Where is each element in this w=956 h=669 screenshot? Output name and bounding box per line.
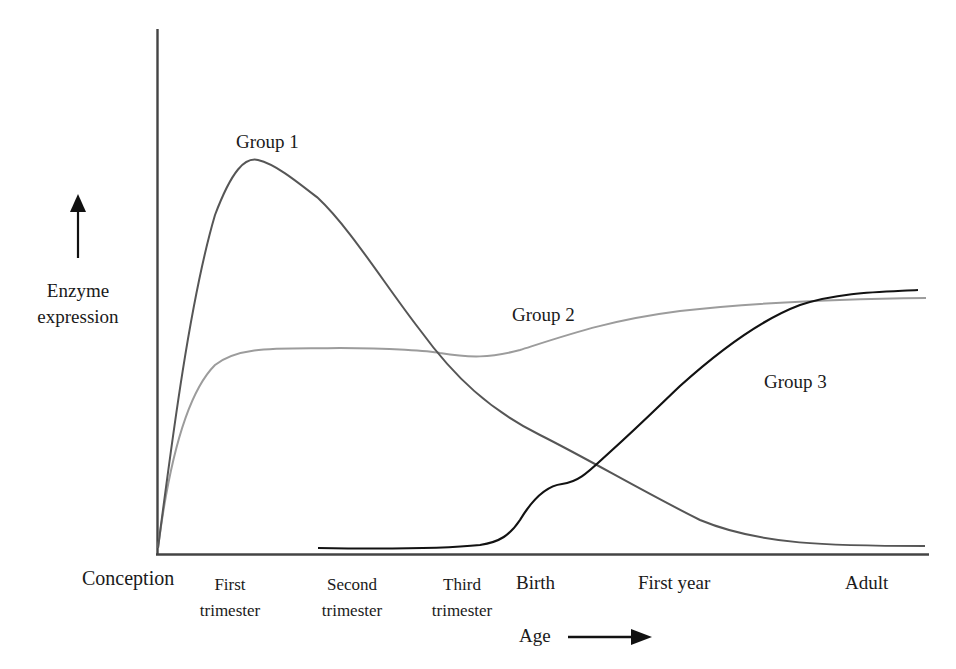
y-axis-label-line2: expression: [22, 306, 134, 328]
x-axis-label: Age: [519, 625, 551, 647]
group1-label: Group 1: [236, 131, 299, 153]
tick-first-trimester-line2: trimester: [190, 598, 270, 624]
group2-curve: [158, 298, 926, 548]
tick-third-trimester-line2: trimester: [422, 598, 502, 624]
x-arrow-icon: [568, 629, 652, 645]
tick-first-trimester: First trimester: [190, 572, 270, 624]
tick-second-trimester-line2: trimester: [312, 598, 392, 624]
tick-second-trimester-line1: Second: [312, 572, 392, 598]
tick-birth: Birth: [516, 572, 555, 594]
y-axis-label: Enzyme expression: [22, 280, 134, 328]
tick-conception: Conception: [82, 567, 174, 589]
group2-label: Group 2: [512, 304, 575, 326]
y-axis-label-line1: Enzyme: [22, 280, 134, 302]
group3-label: Group 3: [764, 371, 827, 393]
tick-second-trimester: Second trimester: [312, 572, 392, 624]
tick-third-trimester-line1: Third: [422, 572, 502, 598]
y-arrow-icon: [70, 194, 86, 258]
tick-third-trimester: Third trimester: [422, 572, 502, 624]
tick-first-trimester-line1: First: [190, 572, 270, 598]
group3-curve: [318, 290, 918, 549]
tick-adult: Adult: [845, 572, 888, 594]
tick-first-year: First year: [638, 572, 710, 594]
group1-curve: [158, 160, 925, 548]
